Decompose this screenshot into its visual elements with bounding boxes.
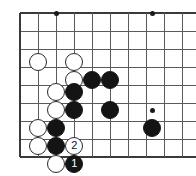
grid-line-vertical [164, 13, 165, 157]
grid-line-horizontal [20, 31, 196, 32]
stone-white [29, 119, 47, 137]
stone-black [65, 101, 83, 119]
go-board-diagram: 21 [0, 0, 196, 176]
stone-white [47, 101, 65, 119]
star-point [150, 108, 155, 113]
grid-line-horizontal [20, 67, 196, 68]
goban-grid: 21 [0, 0, 196, 176]
grid-line-vertical [128, 13, 129, 157]
stone-move-1: 1 [65, 155, 83, 173]
stone-black [101, 101, 119, 119]
star-point [54, 11, 59, 16]
move-number-label: 2 [71, 140, 77, 151]
grid-line-horizontal [20, 156, 196, 158]
grid-line-horizontal [20, 12, 196, 14]
stone-white [29, 137, 47, 155]
star-point [150, 11, 155, 16]
grid-line-horizontal [20, 121, 196, 122]
stone-white [65, 53, 83, 71]
stone-black [65, 83, 83, 101]
stone-black [101, 71, 119, 89]
stone-black [47, 119, 65, 137]
stone-white [47, 155, 65, 173]
stone-white [47, 83, 65, 101]
stone-move-2: 2 [65, 137, 83, 155]
grid-line-horizontal [20, 139, 196, 140]
grid-line-vertical [19, 13, 21, 157]
grid-line-vertical [182, 13, 183, 157]
stone-black [143, 119, 161, 137]
move-number-label: 1 [71, 158, 77, 169]
stone-white [29, 53, 47, 71]
stone-black [83, 71, 101, 89]
stone-black [47, 137, 65, 155]
grid-line-horizontal [20, 49, 196, 50]
